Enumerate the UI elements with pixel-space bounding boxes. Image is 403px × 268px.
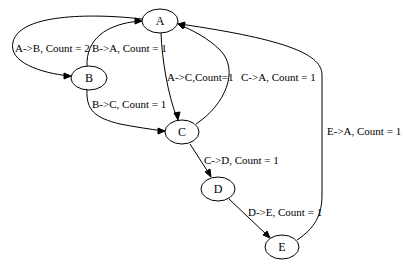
arrowhead-icon	[64, 73, 71, 79]
edge-b-to-c-path	[87, 90, 163, 131]
node-e-label: E	[278, 240, 285, 254]
edge-label-a-to-c: A->C,Count=1	[167, 71, 234, 83]
edge-label-c-to-d: C->D, Count = 1	[204, 154, 279, 166]
edge-c-to-d: C->D, Count = 1	[190, 144, 279, 177]
node-b-label: B	[85, 71, 93, 85]
arrowhead-icon	[205, 169, 211, 177]
edge-d-to-e: D->E, Count = 1	[229, 199, 322, 238]
node-c[interactable]: C	[165, 120, 199, 144]
node-a[interactable]: A	[142, 9, 178, 33]
edge-label-e-to-a: E->A, Count = 1	[327, 125, 401, 137]
node-d-label: D	[214, 182, 223, 196]
node-e[interactable]: E	[265, 235, 299, 259]
node-d[interactable]: D	[201, 177, 235, 201]
edge-label-b-to-a: B->A, Count = 1	[92, 42, 167, 54]
edge-label-c-to-a: C->A, Count = 1	[241, 71, 316, 83]
arrowhead-icon	[158, 128, 165, 134]
node-b[interactable]: B	[71, 66, 107, 90]
arrowhead-icon	[174, 112, 180, 120]
edge-label-a-to-b: A->B, Count = 2	[15, 42, 90, 54]
edge-b-to-c: B->C, Count = 1	[87, 90, 166, 134]
edge-a-to-c: A->C,Count=1	[161, 33, 234, 120]
node-a-label: A	[156, 14, 165, 28]
edge-label-b-to-c: B->C, Count = 1	[92, 98, 166, 110]
node-c-label: C	[178, 125, 186, 139]
edge-label-d-to-e: D->E, Count = 1	[248, 206, 322, 218]
transition-graph: A->B, Count = 2 B->A, Count = 1 A->C,Cou…	[0, 0, 403, 268]
